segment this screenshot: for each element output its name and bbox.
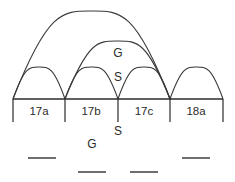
diagram-canvas: 17a17b17c18a GSSG (0, 0, 235, 182)
arc-17a (13, 67, 65, 99)
arc-17b (65, 67, 118, 99)
label-g-upper: G (113, 46, 122, 60)
segment-label-17c: 17c (135, 105, 154, 117)
dashes-group (28, 158, 210, 172)
segment-label-17a: 17a (29, 105, 49, 117)
segment-label-17b: 17b (81, 105, 100, 117)
segment-label-18a: 18a (186, 105, 206, 117)
label-g-lower: G (87, 137, 96, 151)
segment-arc-diagram: 17a17b17c18a GSSG (0, 0, 235, 182)
arc-17c (118, 67, 170, 99)
label-s-lower: S (114, 124, 122, 138)
label-s-upper: S (114, 70, 122, 84)
arc-18a (170, 67, 223, 99)
arc-17a-17c (13, 11, 170, 99)
